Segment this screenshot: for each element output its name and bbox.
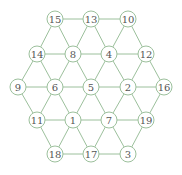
- node-1: 1: [65, 112, 81, 128]
- node-label: 1: [70, 115, 76, 126]
- node-12: 12: [138, 46, 154, 62]
- node-label: 5: [88, 82, 94, 93]
- node-18: 18: [47, 146, 63, 162]
- node-label: 11: [31, 115, 44, 126]
- node-8: 8: [65, 46, 81, 62]
- node-label: 19: [140, 115, 153, 126]
- node-4: 4: [101, 46, 117, 62]
- node-9: 9: [10, 79, 26, 95]
- node-label: 17: [85, 149, 98, 160]
- node-7: 7: [101, 112, 117, 128]
- node-label: 14: [31, 49, 44, 60]
- hex-graph-diagram: 15131014841296521611171918173: [0, 0, 182, 175]
- node-label: 15: [49, 14, 62, 25]
- node-label: 9: [15, 82, 21, 93]
- node-6: 6: [47, 79, 63, 95]
- graph-canvas: 15131014841296521611171918173: [0, 0, 182, 175]
- node-label: 10: [122, 14, 135, 25]
- node-11: 11: [29, 112, 45, 128]
- node-label: 18: [49, 149, 62, 160]
- node-label: 7: [106, 115, 112, 126]
- node-13: 13: [83, 11, 99, 27]
- node-3: 3: [120, 146, 136, 162]
- node-label: 13: [85, 14, 98, 25]
- node-19: 19: [138, 112, 154, 128]
- node-label: 16: [158, 82, 171, 93]
- node-14: 14: [29, 46, 45, 62]
- node-2: 2: [120, 79, 136, 95]
- node-label: 2: [125, 82, 131, 93]
- node-10: 10: [120, 11, 136, 27]
- node-label: 6: [52, 82, 58, 93]
- node-15: 15: [47, 11, 63, 27]
- node-5: 5: [83, 79, 99, 95]
- node-16: 16: [156, 79, 172, 95]
- node-label: 3: [125, 149, 131, 160]
- node-label: 12: [140, 49, 153, 60]
- node-label: 8: [70, 49, 76, 60]
- node-17: 17: [83, 146, 99, 162]
- node-label: 4: [106, 49, 112, 60]
